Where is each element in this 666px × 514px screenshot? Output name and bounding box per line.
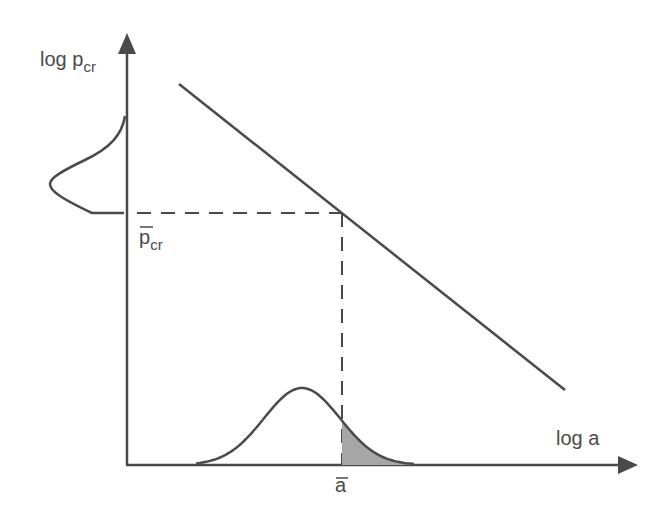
x-axis-label: log a: [556, 427, 600, 449]
y-axis-label: log pcr: [40, 48, 96, 75]
p-cr-mean-label: pcr: [139, 226, 163, 253]
x-axis-arrowhead-icon: [618, 456, 638, 474]
distribution-a-curve: [196, 388, 414, 464]
diagram: log pcr log a pcr a: [0, 0, 666, 514]
y-axis-arrowhead-icon: [118, 33, 136, 54]
a-mean-label: a: [335, 474, 347, 496]
distribution-p-cr-curve: [50, 116, 125, 213]
shaded-tail-area: [342, 421, 414, 465]
p-cr-vs-a-line: [179, 84, 565, 390]
